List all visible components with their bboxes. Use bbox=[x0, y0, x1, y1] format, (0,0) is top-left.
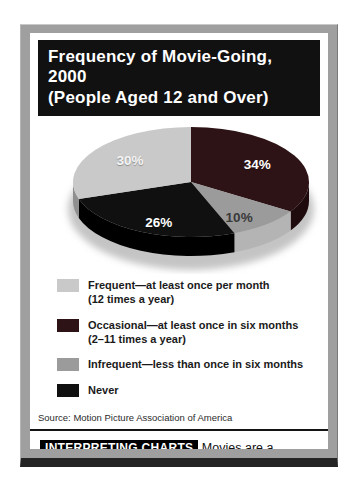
legend: Frequent—at least once per month (12 tim… bbox=[57, 278, 320, 408]
legend-item-never: Never bbox=[57, 383, 320, 397]
pie-label-occasional: 34% bbox=[244, 157, 271, 172]
chart-title: Frequency of Movie-Going, 2000 (People A… bbox=[38, 40, 320, 116]
chart-card-frame: Frequency of Movie-Going, 2000 (People A… bbox=[20, 24, 338, 467]
legend-swatch-frequent bbox=[57, 279, 79, 292]
pie-chart-area: 34%10%26%30% bbox=[38, 124, 320, 274]
legend-swatch-never bbox=[57, 384, 79, 397]
chart-title-line2: (People Aged 12 and Over) bbox=[48, 88, 310, 108]
pie-label-never: 26% bbox=[145, 215, 172, 230]
legend-label-line2: (2–11 times a year) bbox=[88, 332, 298, 346]
chart-card: Frequency of Movie-Going, 2000 (People A… bbox=[30, 33, 328, 449]
chart-title-line1: Frequency of Movie-Going, 2000 bbox=[48, 47, 310, 88]
legend-item-infrequent: Infrequent—less than once in six months bbox=[57, 357, 320, 371]
legend-swatch-infrequent bbox=[57, 358, 79, 371]
source-note: Source: Motion Picture Association of Am… bbox=[38, 412, 320, 423]
legend-label: Occasional—at least once in six months bbox=[88, 318, 298, 332]
legend-label: Never bbox=[88, 383, 119, 397]
legend-item-occasional: Occasional—at least once in six months (… bbox=[57, 318, 320, 347]
interpreting-charts-block: INTERPRETING CHARTS Movies are a popular… bbox=[38, 431, 320, 449]
pie-label-frequent: 30% bbox=[116, 153, 143, 168]
legend-label: Infrequent—less than once in six months bbox=[88, 357, 303, 371]
legend-label: Frequent—at least once per month bbox=[88, 278, 270, 292]
interpreting-charts-heading: INTERPRETING CHARTS bbox=[40, 440, 198, 449]
legend-swatch-occasional bbox=[57, 319, 79, 332]
legend-label-line2: (12 times a year) bbox=[88, 292, 270, 306]
legend-item-frequent: Frequent—at least once per month (12 tim… bbox=[57, 278, 320, 307]
pie-chart: 34%10%26%30% bbox=[38, 124, 328, 274]
pie-label-infrequent: 10% bbox=[226, 210, 253, 225]
